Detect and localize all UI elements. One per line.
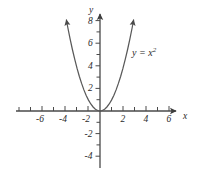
y-tick-label-4: 4 [88, 62, 93, 72]
curve-equation-text: y = x [132, 47, 153, 58]
y-axis-label: y [89, 6, 93, 16]
x-tick-label--2: -2 [82, 115, 90, 125]
x-tick-label--6: -6 [36, 115, 44, 125]
curve-equation-label: y = x2 [132, 47, 156, 58]
x-tick-label-4: 4 [144, 115, 149, 125]
y-tick-label-6: 6 [88, 39, 93, 49]
coordinate-plot [0, 0, 197, 174]
x-tick-label-2: 2 [121, 115, 126, 125]
curve-equation-exponent: 2 [153, 46, 157, 54]
x-tick-label--4: -4 [59, 115, 67, 125]
x-axis-label: x [183, 112, 187, 122]
y-tick-label-8: 8 [88, 17, 93, 27]
x-tick-label-6: 6 [167, 115, 172, 125]
y-tick-label--4: -4 [85, 152, 93, 162]
graph-figure: y x -6 -4 -2 2 4 6 8 6 4 2 -2 -4 y = x2 [0, 0, 197, 174]
y-tick-label-2: 2 [88, 84, 93, 94]
y-axis [96, 14, 101, 168]
y-tick-label--2: -2 [85, 130, 93, 140]
y-axis-ticks [96, 21, 101, 157]
